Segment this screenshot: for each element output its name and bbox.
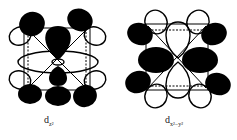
- label-dx2-y2: dx²−y²: [165, 114, 183, 127]
- panel-dx2-y2: dx²−y²: [118, 0, 237, 140]
- dz2-orbital-diagram: [0, 0, 118, 140]
- panel-dz2: dz²: [0, 0, 118, 140]
- label-dz2: dz²: [44, 114, 53, 127]
